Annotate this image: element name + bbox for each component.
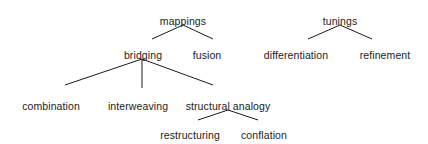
tree-node-structural-analogy: structural analogy: [186, 100, 271, 112]
tree-edge: [183, 25, 213, 39]
tree-node-combination: combination: [22, 100, 80, 112]
tree-node-conflation: conflation: [241, 129, 287, 141]
tree-node-fusion: fusion: [193, 49, 222, 61]
tree-edge: [340, 25, 372, 39]
edge-layer: [0, 0, 428, 144]
tree-node-mappings: mappings: [160, 15, 206, 27]
tree-edge: [308, 25, 340, 39]
tree-diagram: mappingsbridgingfusioncombinationinterwe…: [0, 0, 428, 144]
tree-node-interweaving: interweaving: [108, 100, 168, 112]
tree-node-tunings: tunings: [323, 15, 358, 27]
tree-node-refinement: refinement: [360, 49, 411, 61]
tree-edge: [142, 59, 213, 85]
tree-node-bridging: bridging: [124, 49, 162, 61]
tree-edge: [152, 25, 183, 39]
tree-node-differentiation: differentiation: [264, 49, 328, 61]
tree-node-restructuring: restructuring: [160, 129, 220, 141]
tree-edge: [65, 59, 142, 85]
